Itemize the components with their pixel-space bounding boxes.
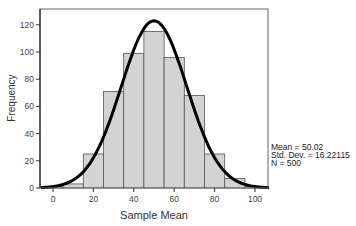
x-tick-label: 20 [89, 194, 99, 204]
y-axis-ticks: 020406080100120 [20, 20, 40, 193]
y-tick-label: 60 [25, 101, 35, 111]
histogram-bar [144, 32, 164, 188]
y-tick-label: 20 [25, 156, 35, 166]
x-tick-label: 60 [169, 194, 179, 204]
stat-n: N = 500 [271, 159, 350, 167]
x-tick-label: 40 [129, 194, 139, 204]
y-tick-label: 80 [25, 74, 35, 84]
x-tick-label: 80 [210, 194, 220, 204]
histogram-bars [43, 32, 265, 188]
stats-legend: Mean = 50.02 Std. Dev. = 16.22115 N = 50… [271, 143, 350, 167]
histogram-chart: 020406080100120 020406080100 Sample Mean… [0, 0, 356, 226]
x-tick-label: 0 [51, 194, 56, 204]
x-tick-label: 100 [248, 194, 262, 204]
y-tick-label: 100 [20, 47, 34, 57]
y-tick-label: 120 [20, 20, 34, 30]
histogram-bar [164, 57, 184, 188]
y-tick-label: 40 [25, 129, 35, 139]
y-axis-label: Frequency [6, 74, 17, 121]
x-axis-ticks: 020406080100 [51, 188, 263, 204]
y-tick-label: 0 [29, 183, 34, 193]
x-axis-label: Sample Mean [120, 209, 188, 221]
